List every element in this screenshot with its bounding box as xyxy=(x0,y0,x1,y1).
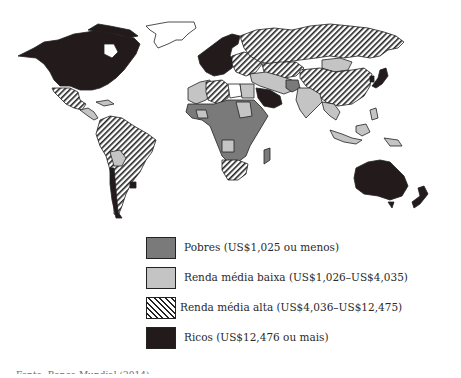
region-australia xyxy=(354,160,408,200)
region-north-america xyxy=(18,30,140,90)
region-philippines xyxy=(370,108,378,120)
region-caribbean xyxy=(96,100,114,106)
legend-label-rich: Ricos (US$12,476 ou mais) xyxy=(184,331,329,343)
region-central-america xyxy=(80,108,98,120)
region-new-zealand xyxy=(412,186,428,208)
legend-label-poor: Pobres (US$1,025 ou menos) xyxy=(184,241,339,253)
region-korea xyxy=(370,76,374,82)
region-borneo xyxy=(356,124,370,136)
region-western-europe xyxy=(198,34,240,76)
world-map xyxy=(0,0,461,230)
legend-swatch-upper-middle xyxy=(146,297,176,319)
region-west-africa-lowmid xyxy=(196,110,208,118)
source-caption: Fonte: Banco Mundial (2014) xyxy=(16,370,149,378)
region-madagascar xyxy=(264,148,270,164)
region-south-america xyxy=(96,116,156,216)
region-papua xyxy=(384,138,402,146)
region-south-africa xyxy=(222,160,248,180)
legend-label-low-middle: Renda média baixa (US$1,026–US$4,035) xyxy=(184,271,408,283)
legend-swatch-low-middle xyxy=(146,267,176,289)
region-angola xyxy=(222,140,234,152)
legend-label-upper-middle: Renda média alta (US$4,036–US$12,475) xyxy=(180,301,402,313)
region-india xyxy=(296,88,322,118)
legend-swatch-poor xyxy=(146,237,176,259)
region-mexico xyxy=(52,88,86,110)
region-egypt xyxy=(240,84,254,98)
region-uruguay xyxy=(130,182,136,188)
region-russia xyxy=(240,24,404,64)
region-sub-saharan-africa xyxy=(186,100,268,162)
legend-swatch-rich xyxy=(146,327,176,349)
region-greenland xyxy=(146,22,196,48)
region-tasmania xyxy=(388,202,394,208)
